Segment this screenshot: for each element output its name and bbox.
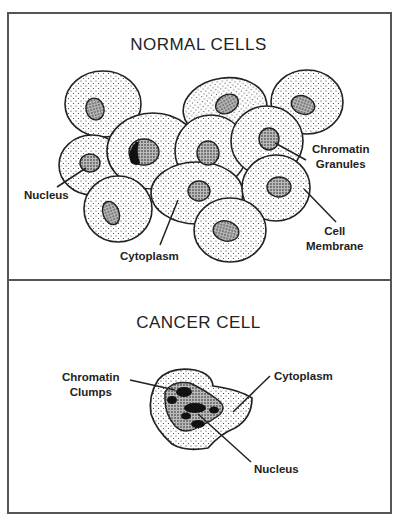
- label-cancer-nucleus: Nucleus: [254, 462, 299, 477]
- label-membrane-line2: Membrane: [306, 239, 364, 254]
- label-chromatin-clumps: Chromatin Clumps: [62, 370, 120, 400]
- label-chromatin-line1: Chromatin: [312, 142, 370, 157]
- label-nucleus: Nucleus: [24, 188, 69, 203]
- label-chromatin-granules: Chromatin Granules: [312, 142, 370, 172]
- label-clumps-line2: Clumps: [62, 385, 120, 400]
- label-chromatin-line1: Chromatin: [62, 370, 120, 385]
- label-cell-line1: Cell: [306, 224, 364, 239]
- label-cell-membrane: Cell Membrane: [306, 224, 364, 254]
- label-granules-line2: Granules: [312, 157, 370, 172]
- cell-illustration: [0, 0, 397, 522]
- label-cytoplasm: Cytoplasm: [120, 249, 179, 264]
- label-cancer-cytoplasm: Cytoplasm: [274, 369, 333, 384]
